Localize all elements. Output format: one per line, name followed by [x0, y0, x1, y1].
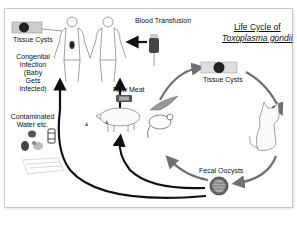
- label-line: Infection: [13, 61, 53, 69]
- pig-icon: [96, 108, 140, 132]
- label-tissue-cysts-cycle: Tissue Cysts: [203, 76, 243, 84]
- label-tissue-cysts-human: Tissue Cysts: [13, 36, 53, 44]
- label-line: Infected): [13, 85, 53, 93]
- tissue-cyst-icon: [201, 62, 237, 73]
- diagram-title: Life Cycle of Toxoplasma gondii: [222, 22, 293, 44]
- mouse-icon: [147, 114, 173, 138]
- label-line: Congenital: [13, 53, 53, 61]
- blood-bag-icon: [149, 34, 159, 66]
- cat-icon: [250, 102, 279, 150]
- label-line: (Baby: [13, 69, 53, 77]
- label-line: Water etc.: [10, 121, 55, 129]
- human-figure-icon: [90, 17, 126, 82]
- label-raw-meat: Raw Meat: [113, 86, 145, 94]
- produce-icon: [21, 131, 43, 152]
- human-figure-icon: [54, 17, 90, 82]
- label-contaminated-water: Contaminated Water etc.: [10, 113, 55, 129]
- tissue-cyst-icon: [12, 22, 62, 33]
- oocyst-icon: [210, 177, 228, 195]
- bird-icon: [150, 96, 178, 110]
- label-fecal-oocysts: Fecal Oocysts: [199, 167, 243, 175]
- water-container-icon: [48, 129, 55, 143]
- label-line: Contaminated: [10, 113, 55, 121]
- title-species: Toxoplasma gondii: [222, 33, 293, 44]
- sandbox-icon: [22, 158, 64, 174]
- label-line: Gets: [13, 77, 53, 85]
- label-blood-transfusion: Blood Transfusion: [135, 17, 191, 25]
- title-line-1: Life Cycle of: [234, 22, 281, 32]
- label-congenital-infection: Congenital Infection (Baby Gets Infected…: [13, 53, 53, 93]
- meat-package-icon: [116, 95, 132, 102]
